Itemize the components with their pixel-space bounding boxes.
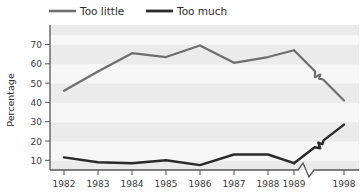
x-tick-label-1998: 1998 [333, 179, 356, 189]
line-chart: Too little Too much 70 60 50 40 30 20 10 [0, 0, 363, 195]
x-tick-label-1983: 1983 [87, 179, 110, 189]
y-tick-label-20: 20 [31, 137, 43, 147]
y-tick-label-30: 30 [31, 117, 43, 127]
x-tick-label-1982: 1982 [53, 179, 76, 189]
x-tick-label-1988: 1988 [257, 179, 280, 189]
legend-label-too-much: Too much [176, 5, 227, 17]
y-tick-label-60: 60 [31, 59, 43, 69]
x-tick-label-1984: 1984 [121, 179, 144, 189]
chart-legend: Too little Too much [49, 5, 227, 17]
legend-item-too-little[interactable]: Too little [49, 5, 124, 17]
x-tick-label-1986: 1986 [189, 179, 212, 189]
x-tick-label-1985: 1985 [155, 179, 178, 189]
legend-item-too-much[interactable]: Too much [146, 5, 227, 17]
x-tick-label-1987: 1987 [223, 179, 246, 189]
x-tick-label-1989: 1989 [283, 179, 306, 189]
y-tick-label-70: 70 [31, 40, 43, 50]
y-tick-label-40: 40 [31, 98, 43, 108]
y-axis: 70 60 50 40 30 20 10 Percentage [5, 25, 50, 170]
y-tick-label-50: 50 [31, 79, 43, 89]
y-axis-title: Percentage [5, 73, 16, 127]
legend-label-too-little: Too little [79, 5, 124, 17]
y-tick-label-10: 10 [31, 156, 43, 166]
chart-container: Too little Too much 70 60 50 40 30 20 10 [0, 0, 363, 195]
